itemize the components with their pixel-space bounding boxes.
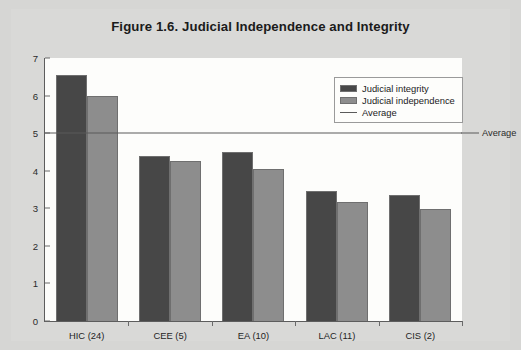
legend-item: Judicial independence	[340, 94, 455, 106]
bar-integrity	[306, 191, 337, 321]
bar-group	[212, 58, 295, 321]
y-axis-tick-label: 0	[33, 316, 38, 327]
bar-integrity	[139, 156, 170, 321]
x-axis-category-label: CIS (2)	[405, 330, 435, 341]
legend-swatch-line	[340, 112, 357, 113]
y-axis-tick-label: 7	[33, 53, 38, 64]
y-axis-tick-label: 5	[33, 128, 38, 139]
bar-group	[128, 58, 211, 321]
x-axis-tick	[128, 321, 129, 326]
x-axis-category-label: LAC (11)	[318, 330, 355, 341]
figure-container: Figure 1.6. Judicial Independence and In…	[0, 0, 521, 350]
bar-independence	[87, 96, 118, 321]
bar-independence	[253, 169, 284, 321]
x-axis-tick	[212, 321, 213, 326]
average-line-label: Average	[482, 128, 516, 138]
figure-card: Figure 1.6. Judicial Independence and In…	[11, 9, 510, 341]
x-axis-tick	[295, 321, 296, 326]
bar-integrity	[389, 195, 420, 321]
x-axis-category-label: EA (10)	[238, 330, 269, 341]
average-reference-line	[45, 133, 462, 134]
legend-label: Average	[362, 107, 397, 118]
bar-integrity	[222, 152, 253, 321]
legend-swatch-independence	[340, 97, 357, 104]
y-axis-tick-label: 2	[33, 240, 38, 251]
bar-integrity	[56, 75, 87, 321]
bar-independence	[420, 209, 451, 321]
legend-label: Judicial integrity	[362, 83, 429, 94]
page-title: Figure 1.6. Judicial Independence and In…	[11, 19, 510, 34]
legend-label: Judicial independence	[362, 95, 455, 106]
y-axis-tick-label: 6	[33, 90, 38, 101]
chart-legend: Judicial integrityJudicial independenceA…	[334, 77, 463, 123]
legend-item: Average	[340, 106, 455, 118]
bar-group	[45, 58, 128, 321]
bar-independence	[170, 161, 201, 321]
y-axis-tick-label: 1	[33, 278, 38, 289]
y-axis-tick-label: 3	[33, 203, 38, 214]
bar-independence	[337, 202, 368, 321]
x-axis-category-label: CEE (5)	[153, 330, 186, 341]
average-line-extension	[461, 133, 479, 134]
x-axis-tick	[462, 321, 463, 326]
x-axis-tick	[379, 321, 380, 326]
x-axis-category-label: HIC (24)	[69, 330, 104, 341]
legend-item: Judicial integrity	[340, 82, 455, 94]
y-axis-tick-label: 4	[33, 165, 38, 176]
legend-swatch-integrity	[340, 85, 357, 92]
